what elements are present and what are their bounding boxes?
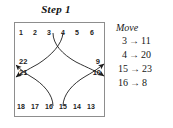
label-left-21: 21 [19,69,27,77]
move-from: 16 [118,77,128,88]
label-bottom-18: 18 [17,103,25,111]
move-row: 15→23 [114,62,173,76]
move-to: 23 [142,63,152,74]
move-row: 16→8 [114,76,173,90]
right-arrow-icon: → [127,49,141,60]
label-top-5: 5 [75,29,79,37]
label-bottom-13: 13 [87,103,95,111]
move-list-heading: Move [114,22,173,34]
label-top-4: 4 [61,29,65,37]
move-row: 4→20 [114,48,173,62]
label-bottom-16: 16 [45,103,53,111]
label-top-2: 2 [33,29,37,37]
label-right-9: 9 [96,58,100,66]
move-row: 3→11 [114,34,173,48]
label-top-6: 6 [90,29,94,37]
crossing-diagram: 1 2 3 4 5 6 22 21 9 10 18 17 16 15 14 13 [14,22,105,117]
label-left-22: 22 [19,58,27,66]
label-bottom-15: 15 [59,103,67,111]
right-arrow-icon: → [128,63,142,74]
move-to: 20 [141,49,151,60]
label-bottom-14: 14 [73,103,81,111]
move-from: 15 [118,63,128,74]
label-top-3: 3 [47,29,51,37]
move-to: 11 [141,35,151,46]
right-arrow-icon: → [127,35,141,46]
label-bottom-17: 17 [31,103,39,111]
label-top-1: 1 [19,29,23,37]
move-to: 8 [142,77,147,88]
figure-root: Step 1 1 2 3 4 5 6 22 21 [0,0,173,128]
right-arrow-icon: → [128,77,142,88]
label-right-10: 10 [93,69,101,77]
move-list: Move 3→11 4→20 15→23 16→8 [114,22,173,90]
